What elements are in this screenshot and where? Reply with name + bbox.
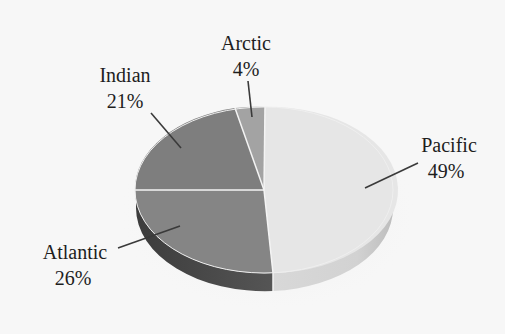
- label-arctic-name: Arctic: [221, 32, 271, 54]
- label-arctic-pct: 4%: [233, 58, 260, 80]
- label-pacific-name: Pacific: [421, 134, 477, 156]
- pie-chart: Arctic 4% Indian 21% Pacific 49% Atlanti…: [0, 0, 505, 334]
- label-atlantic-name: Atlantic: [43, 241, 108, 263]
- label-indian-name: Indian: [99, 64, 150, 86]
- label-pacific-pct: 49%: [428, 160, 465, 182]
- label-atlantic-pct: 26%: [55, 267, 92, 289]
- label-indian-pct: 21%: [107, 90, 144, 112]
